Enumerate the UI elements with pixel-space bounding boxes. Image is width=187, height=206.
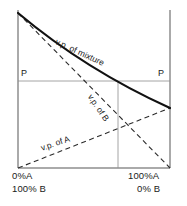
x-axis-label-left-b: 100% B	[12, 183, 46, 194]
pressure-label-right: P	[158, 68, 164, 78]
vapour-pressure-diagram: P P v.p. of mixture v.p. of B v.p. of A …	[0, 0, 187, 206]
x-axis-label-left-a: 0%A	[12, 170, 32, 181]
pressure-label-left: P	[21, 68, 27, 78]
vp-of-a-line	[18, 108, 170, 168]
x-axis-label-right-b: 0% B	[137, 183, 160, 194]
x-axis-label-right-a: 100%A	[128, 170, 159, 181]
